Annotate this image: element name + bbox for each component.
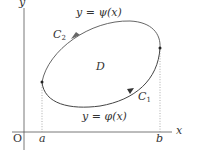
lower-curve-equation: y = φ(x) [81, 110, 127, 123]
diagram-canvas: y x O a b D y = ψ(x) y = φ(x) C2 C1 [0, 0, 197, 168]
c1-label: C1 [138, 90, 151, 104]
arrow-c1-icon [127, 88, 134, 94]
mark-a-label: a [39, 132, 46, 145]
left-endpoint [41, 81, 44, 84]
right-endpoint [159, 47, 162, 50]
region-diagram: y x O a b D y = ψ(x) y = φ(x) C2 C1 [0, 0, 197, 168]
mark-b-label: b [156, 132, 163, 145]
region-label: D [95, 60, 105, 73]
upper-curve-equation: y = ψ(x) [75, 6, 122, 19]
c1-subscript: 1 [146, 96, 150, 104]
origin-label: O [13, 132, 22, 145]
x-axis-label: x [176, 124, 183, 137]
c2-label: C2 [53, 28, 66, 42]
y-axis-label: y [18, 0, 26, 9]
c2-subscript: 2 [61, 34, 65, 42]
